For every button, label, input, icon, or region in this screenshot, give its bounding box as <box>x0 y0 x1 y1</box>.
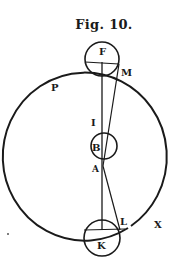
label-F: F <box>99 46 106 57</box>
figure-10: Fig. 10. F M P I B A K L X <box>0 0 188 272</box>
stray-dot <box>7 233 9 235</box>
label-X: X <box>154 219 162 230</box>
orbit-circle <box>3 73 167 241</box>
label-B: B <box>92 142 100 153</box>
label-A: A <box>91 164 100 174</box>
label-K: K <box>97 240 106 251</box>
label-M: M <box>121 67 132 78</box>
label-I: I <box>91 117 96 128</box>
label-L: L <box>120 216 127 227</box>
label-P: P <box>51 82 59 93</box>
geometry-diagram: F M P I B A K L X <box>0 0 188 272</box>
